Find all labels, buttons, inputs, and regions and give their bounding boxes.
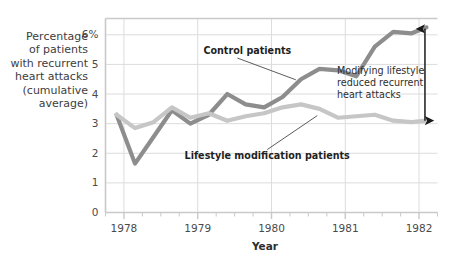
y-axis-title: Percentage of patients with recurrent he… xyxy=(2,30,88,110)
annotation-layer: Control patientsLifestyle modification p… xyxy=(185,29,425,161)
y-axis-title-line: average) xyxy=(2,97,88,110)
x-tick-label: 1978 xyxy=(111,222,138,234)
x-tick-label: 1981 xyxy=(332,222,359,234)
difference-callout-line: reduced recurrent xyxy=(337,77,424,88)
y-tick-label: 1 xyxy=(92,176,99,188)
y-axis-title-line: of patients xyxy=(2,43,88,56)
y-tick-label: 0 xyxy=(92,206,99,218)
lifestyle-patients-leader-line xyxy=(267,116,317,150)
y-axis-title-line: with recurrent xyxy=(2,57,88,70)
x-axis-title: Year xyxy=(251,240,279,252)
y-tick-label: 4 xyxy=(92,88,99,100)
y-axis-title-line: heart attacks xyxy=(2,70,88,83)
y-tick-label: 2 xyxy=(92,147,99,159)
lifestyle-patients-label: Lifestyle modification patients xyxy=(185,150,351,161)
y-axis-title-line: Percentage xyxy=(2,30,88,43)
y-tick-label: 3 xyxy=(92,117,99,129)
chart-container: Percentage of patients with recurrent he… xyxy=(0,0,457,263)
y-axis-title-line: (cumulative xyxy=(2,84,88,97)
difference-callout-line: heart attacks xyxy=(337,89,401,100)
x-tick-label: 1980 xyxy=(258,222,285,234)
x-minor-ticks xyxy=(106,213,438,220)
y-tick-label: 5 xyxy=(92,58,99,70)
difference-callout-line: Modifying lifestyle xyxy=(337,65,424,76)
x-tick-label: 1982 xyxy=(406,222,433,234)
control-patients-label: Control patients xyxy=(203,45,291,56)
x-axis-tick-labels: 19781979198019811982 xyxy=(111,222,433,234)
control-patients-leader-line xyxy=(237,58,295,80)
x-tick-label: 1979 xyxy=(184,222,211,234)
